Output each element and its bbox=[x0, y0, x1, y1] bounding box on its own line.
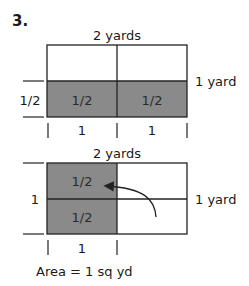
top-width-label: 2 yards bbox=[93, 28, 141, 43]
problem-number: 3. bbox=[12, 12, 28, 30]
bottom-height-label: 1 yard bbox=[195, 192, 236, 207]
bottom-width-label: 2 yards bbox=[93, 146, 141, 161]
top-bottom-label-left: 1 bbox=[78, 123, 86, 138]
top-cell-right-label: 1/2 bbox=[142, 93, 163, 108]
top-diagram: 2 yards 1/2 1/2 1/2 1 yard 1 1 bbox=[20, 28, 237, 138]
bottom-bottom-label: 1 bbox=[78, 241, 86, 256]
area-diagram-figure: 3. 2 yards 1/2 1/2 1/2 1 yard 1 1 2 yard… bbox=[0, 0, 249, 286]
bottom-cell-upper-label: 1/2 bbox=[72, 174, 93, 189]
top-height-label: 1 yard bbox=[195, 74, 236, 89]
top-bottom-label-right: 1 bbox=[148, 123, 156, 138]
bottom-cell-lower-label: 1/2 bbox=[72, 210, 93, 225]
top-cell-left-label: 1/2 bbox=[72, 93, 93, 108]
bottom-diagram: 2 yards 1/2 1/2 1 1 yard 1 Area = 1 sq y… bbox=[23, 146, 236, 279]
bottom-left-label: 1 bbox=[31, 192, 39, 207]
top-left-label: 1/2 bbox=[20, 93, 41, 108]
area-label: Area = 1 sq yd bbox=[36, 264, 133, 279]
